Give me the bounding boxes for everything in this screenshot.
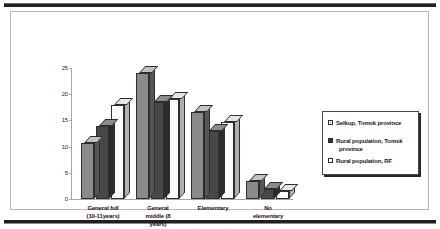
bar bbox=[136, 73, 149, 199]
category-label-line: elementary bbox=[231, 212, 305, 220]
legend-label-rural-tomsk-line2: province bbox=[336, 145, 402, 153]
bar bbox=[246, 181, 259, 199]
y-tick-mark bbox=[69, 68, 72, 69]
y-tick-label: 25 bbox=[53, 65, 68, 71]
figure-frame: 0510152025 General full(10-11years)Gener… bbox=[10, 11, 429, 210]
bar-side-face bbox=[94, 136, 100, 199]
bar-top-face bbox=[139, 66, 158, 73]
bar-front-face bbox=[246, 181, 259, 199]
legend-label-rural-tomsk-wrap: Rural population, Tomsk province bbox=[336, 137, 402, 153]
bar-top-face bbox=[194, 105, 213, 112]
legend-label-rural-rf: Rural population, RF bbox=[336, 157, 392, 165]
bar-top-face bbox=[279, 184, 298, 191]
bar-front-face bbox=[136, 73, 149, 199]
x-axis-line bbox=[71, 199, 293, 200]
bar bbox=[191, 112, 204, 200]
bar bbox=[81, 143, 94, 199]
bar-side-face bbox=[204, 105, 210, 199]
bar-side-face bbox=[219, 124, 225, 199]
legend-swatch-icon-rural-rf bbox=[328, 158, 333, 163]
bar-top-face bbox=[249, 174, 268, 181]
bar-top-face bbox=[224, 115, 243, 122]
legend-swatch-icon-selkup bbox=[328, 120, 333, 125]
y-tick-label: 15 bbox=[53, 117, 68, 123]
bar-side-face bbox=[164, 95, 170, 199]
legend-item-selkup-tomsk: Selkup, Tomsk province bbox=[328, 119, 415, 127]
bar-chart-plot-area: 0510152025 General full(10-11years)Gener… bbox=[23, 20, 301, 195]
legend-item-rural-tomsk: Rural population, Tomsk province bbox=[328, 137, 415, 153]
y-tick-label: 20 bbox=[53, 91, 68, 97]
page-rule-top bbox=[4, 3, 436, 7]
category-label-line: No bbox=[231, 204, 305, 212]
y-tick-mark bbox=[69, 199, 72, 200]
y-tick-label: 0 bbox=[53, 196, 68, 202]
category-label-line: years) bbox=[121, 220, 195, 228]
bar-front-face bbox=[191, 112, 204, 200]
page-rule-bottom bbox=[4, 220, 436, 224]
y-tick-mark bbox=[69, 94, 72, 95]
legend-item-rural-rf: Rural population, RF bbox=[328, 157, 415, 165]
y-tick-label: 5 bbox=[53, 170, 68, 176]
category-label-line: middle (8 bbox=[121, 212, 195, 220]
category-label: Noelementary bbox=[231, 204, 305, 220]
bar-side-face bbox=[179, 93, 185, 199]
legend-label-rural-tomsk-line1: Rural population, Tomsk bbox=[336, 137, 402, 145]
legend-swatch-icon-rural-tomsk bbox=[328, 138, 333, 143]
legend-label-selkup: Selkup, Tomsk province bbox=[336, 119, 401, 127]
y-tick-mark bbox=[69, 147, 72, 148]
chart-legend: Selkup, Tomsk province Rural population,… bbox=[322, 111, 419, 175]
y-tick-label: 10 bbox=[53, 144, 68, 150]
y-tick-mark bbox=[69, 173, 72, 174]
bar-top-face bbox=[114, 98, 133, 105]
bar-side-face bbox=[149, 67, 155, 199]
bar-side-face bbox=[109, 119, 115, 199]
y-axis-line bbox=[71, 68, 72, 200]
bar-front-face bbox=[81, 143, 94, 199]
bar-side-face bbox=[234, 115, 240, 199]
bar-side-face bbox=[124, 98, 130, 199]
y-tick-mark bbox=[69, 120, 72, 121]
